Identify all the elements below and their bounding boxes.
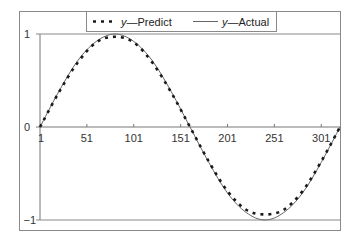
- y-label-top: 1: [24, 28, 30, 40]
- legend: y—Predict y—Actual: [87, 12, 277, 32]
- chart-frame: [20, 12, 341, 231]
- x-tick-label: 1: [38, 132, 44, 144]
- legend-actual-label: y—Actual: [221, 16, 269, 28]
- x-tick-label: 301: [312, 132, 330, 144]
- y-label-zero: 0: [24, 121, 30, 133]
- x-tick-labels: 151101151201251301: [38, 132, 330, 144]
- x-tick-label: 151: [171, 132, 189, 144]
- legend-actual-text: —Actual: [228, 16, 270, 28]
- x-tick-label: 51: [81, 132, 93, 144]
- legend-predict-text: —Predict: [127, 16, 172, 28]
- series-predict-line: [40, 37, 340, 215]
- chart: 1 0 −1 151101151201251301 y—Predict y—Ac…: [0, 0, 358, 243]
- x-tick-label: 101: [125, 132, 143, 144]
- x-tick-label: 251: [265, 132, 283, 144]
- legend-predict-label: y—Predict: [120, 16, 172, 28]
- x-tick-label: 201: [218, 132, 236, 144]
- y-label-bottom: −1: [23, 214, 36, 226]
